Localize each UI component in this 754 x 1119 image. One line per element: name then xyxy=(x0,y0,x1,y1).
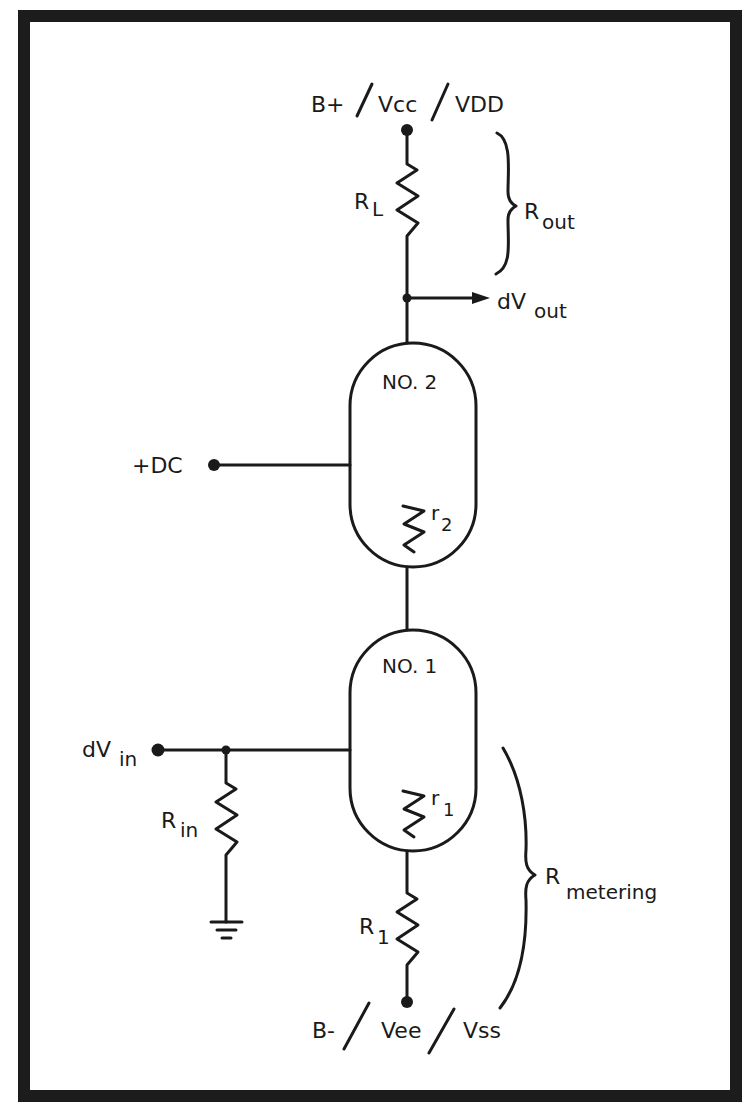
svg-text:1: 1 xyxy=(443,799,454,820)
svg-text:R: R xyxy=(161,808,176,833)
r1-metering-label: R 1 xyxy=(359,914,390,949)
rout-label: R out xyxy=(524,199,575,234)
svg-text:2: 2 xyxy=(441,514,452,535)
separator-slash xyxy=(429,1009,454,1053)
rout-brace xyxy=(496,133,516,274)
metering-resistor-r1 xyxy=(397,851,418,1002)
vcc-label: Vcc xyxy=(378,92,417,117)
r1-label: r 1 xyxy=(431,786,454,820)
rin-label: R in xyxy=(161,808,198,842)
r2-internal-resistor xyxy=(403,506,424,552)
svg-text:R: R xyxy=(524,199,539,224)
dvin-label: dV in xyxy=(82,737,137,771)
svg-text:R: R xyxy=(359,914,374,939)
dc-bias-label: +DC xyxy=(132,453,183,478)
separator-slash xyxy=(357,84,372,116)
svg-text:R: R xyxy=(354,189,369,214)
svg-text:metering: metering xyxy=(566,880,657,904)
output-arrow-icon xyxy=(472,292,490,304)
vdd-label: VDD xyxy=(455,92,504,117)
svg-text:in: in xyxy=(119,747,137,771)
vee-label: Vee xyxy=(381,1018,421,1043)
load-resistor-rl xyxy=(397,130,418,298)
bottom-supply-label: B- Vee Vss xyxy=(312,1003,501,1053)
separator-slash xyxy=(344,1003,369,1049)
top-supply-label: B+ Vcc VDD xyxy=(311,84,504,120)
device-2-label: NO. 2 xyxy=(382,370,437,394)
separator-slash xyxy=(432,84,448,120)
svg-text:out: out xyxy=(542,210,575,234)
circuit-diagram: B+ Vcc VDD R L R out dV out NO. 2 r 2 +D… xyxy=(0,0,754,1119)
b-minus-label: B- xyxy=(312,1018,335,1043)
vss-label: Vss xyxy=(463,1018,501,1043)
r2-label: r 2 xyxy=(431,501,452,535)
svg-text:r: r xyxy=(431,501,440,525)
rmetering-label: R metering xyxy=(545,864,657,904)
b-plus-label: B+ xyxy=(311,92,345,117)
rmetering-brace xyxy=(500,748,535,1008)
svg-text:in: in xyxy=(180,818,198,842)
device-1-label: NO. 1 xyxy=(382,654,437,678)
ground-icon xyxy=(211,922,242,938)
svg-text:dV: dV xyxy=(82,737,111,762)
r1-internal-resistor xyxy=(403,791,424,837)
svg-text:r: r xyxy=(431,786,440,810)
dvout-label: dV out xyxy=(497,289,567,323)
svg-text:1: 1 xyxy=(377,925,390,949)
svg-text:R: R xyxy=(545,864,560,889)
bottom-supply-node xyxy=(401,996,413,1008)
svg-text:dV: dV xyxy=(497,289,526,314)
input-resistor-rin xyxy=(216,750,237,922)
svg-text:out: out xyxy=(534,299,567,323)
svg-text:L: L xyxy=(372,197,384,221)
rl-label: R L xyxy=(354,189,384,221)
